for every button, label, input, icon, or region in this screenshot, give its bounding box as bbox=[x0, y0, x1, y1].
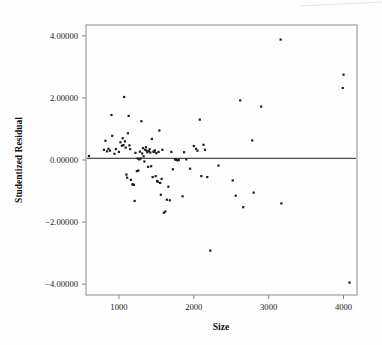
data-point bbox=[88, 155, 90, 157]
data-point bbox=[167, 186, 169, 188]
data-point bbox=[123, 96, 125, 98]
data-point bbox=[342, 74, 344, 76]
data-point bbox=[142, 147, 144, 149]
data-point bbox=[104, 140, 106, 142]
data-point bbox=[160, 194, 162, 196]
data-point bbox=[199, 119, 201, 121]
plot-border bbox=[86, 25, 357, 295]
data-point bbox=[147, 166, 149, 168]
data-point bbox=[157, 181, 159, 183]
data-point bbox=[149, 151, 151, 153]
data-point bbox=[183, 151, 185, 153]
data-point bbox=[193, 145, 195, 147]
x-axis-title: Size bbox=[213, 322, 229, 332]
data-point bbox=[125, 173, 127, 175]
y-axis-ticks bbox=[82, 36, 86, 284]
data-point bbox=[150, 165, 152, 167]
data-point bbox=[140, 120, 142, 122]
data-point bbox=[178, 159, 180, 161]
data-point bbox=[235, 195, 237, 197]
data-point bbox=[189, 168, 191, 170]
data-point bbox=[172, 168, 174, 170]
data-point bbox=[128, 115, 130, 117]
data-point bbox=[149, 148, 151, 150]
y-tick-label: −4.00000 bbox=[45, 279, 78, 289]
data-point bbox=[134, 152, 136, 154]
data-point bbox=[154, 149, 156, 151]
data-point bbox=[181, 195, 183, 197]
data-point bbox=[204, 149, 206, 151]
data-point bbox=[109, 150, 111, 152]
data-point bbox=[217, 164, 219, 166]
data-point bbox=[196, 150, 198, 152]
data-point bbox=[161, 149, 163, 151]
data-point bbox=[155, 175, 157, 177]
data-point bbox=[122, 137, 124, 139]
data-point bbox=[125, 146, 127, 148]
data-point bbox=[130, 179, 132, 181]
data-point bbox=[141, 152, 143, 154]
data-point bbox=[145, 146, 147, 148]
data-point bbox=[161, 178, 163, 180]
data-point bbox=[200, 175, 202, 177]
x-tick-label: 4000 bbox=[335, 302, 352, 312]
data-point bbox=[103, 149, 105, 151]
data-point bbox=[158, 129, 160, 131]
data-point bbox=[127, 132, 129, 134]
data-point bbox=[155, 152, 157, 154]
data-point bbox=[124, 140, 126, 142]
data-point bbox=[129, 148, 131, 150]
data-point bbox=[143, 160, 145, 162]
data-point bbox=[119, 141, 121, 143]
data-points bbox=[88, 38, 351, 283]
data-point bbox=[348, 281, 350, 283]
data-point bbox=[251, 139, 253, 141]
data-point bbox=[143, 155, 145, 157]
data-point bbox=[342, 87, 344, 89]
x-axis-tick-labels: 1000200030004000 bbox=[110, 302, 352, 312]
data-point bbox=[260, 106, 262, 108]
data-point bbox=[137, 169, 139, 171]
scatter-plot: 4.000002.000000.00000−2.00000−4.00000 10… bbox=[0, 0, 382, 345]
y-tick-label: 2.00000 bbox=[50, 93, 78, 103]
plot-frame bbox=[86, 25, 357, 295]
data-point bbox=[232, 179, 234, 181]
data-point bbox=[280, 202, 282, 204]
data-point bbox=[209, 250, 211, 252]
data-point bbox=[166, 199, 168, 201]
data-point bbox=[159, 182, 161, 184]
data-point bbox=[206, 176, 208, 178]
data-point bbox=[113, 153, 115, 155]
data-point bbox=[169, 199, 171, 201]
y-tick-label: −2.00000 bbox=[45, 217, 78, 227]
data-point bbox=[239, 99, 241, 101]
data-point bbox=[139, 151, 141, 153]
data-point bbox=[111, 135, 113, 137]
x-tick-label: 3000 bbox=[260, 302, 277, 312]
data-point bbox=[242, 206, 244, 208]
data-point bbox=[115, 148, 117, 150]
y-tick-label: 0.00000 bbox=[50, 155, 78, 165]
data-point bbox=[122, 144, 124, 146]
y-tick-label: 4.00000 bbox=[50, 31, 78, 41]
data-point bbox=[152, 176, 154, 178]
y-axis-title: Studentized Residual bbox=[14, 117, 24, 203]
x-tick-label: 1000 bbox=[110, 302, 127, 312]
data-point bbox=[106, 150, 108, 152]
data-point bbox=[280, 38, 282, 40]
data-point bbox=[134, 200, 136, 202]
x-tick-label: 2000 bbox=[185, 302, 202, 312]
x-axis-ticks bbox=[119, 295, 344, 299]
data-point bbox=[128, 144, 130, 146]
data-point bbox=[151, 138, 153, 140]
y-axis-tick-labels: 4.000002.000000.00000−2.00000−4.00000 bbox=[45, 31, 78, 289]
data-point bbox=[202, 144, 204, 146]
data-point bbox=[170, 151, 172, 153]
data-point bbox=[110, 114, 112, 116]
data-point bbox=[133, 184, 135, 186]
data-point bbox=[253, 191, 255, 193]
data-point bbox=[140, 157, 142, 159]
figure-container: 4.000002.000000.00000−2.00000−4.00000 10… bbox=[0, 0, 382, 345]
page-edge-artifact bbox=[300, 2, 382, 6]
data-point bbox=[185, 158, 187, 160]
